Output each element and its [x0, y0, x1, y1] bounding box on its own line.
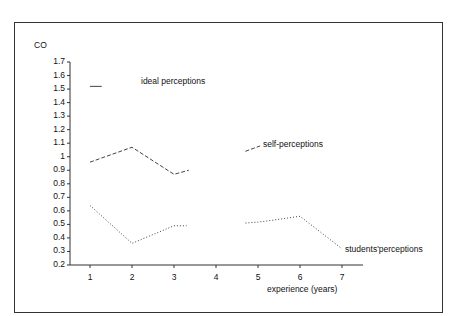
y-tick-label: 0.3	[35, 245, 65, 255]
y-axis-label: CO	[34, 40, 47, 50]
y-tick-label: 0.9	[35, 164, 65, 174]
y-tick-label: 1.4	[35, 97, 65, 107]
students-perceptions-label: students'perceptions	[345, 244, 423, 254]
x-tick-label: 3	[167, 272, 181, 282]
x-tick-label: 4	[209, 272, 223, 282]
self-perceptions-label: self-perceptions	[263, 139, 323, 149]
x-axis-label: experience (years)	[267, 284, 337, 294]
y-tick-label: 1.6	[35, 70, 65, 80]
series-line-self-perceptions	[90, 147, 189, 174]
series-line-students-perceptions	[90, 205, 187, 243]
y-tick-label: 1.3	[35, 110, 65, 120]
x-tick-label: 6	[293, 272, 307, 282]
y-tick-label: 0.2	[35, 259, 65, 269]
y-tick-label: 0.6	[35, 205, 65, 215]
y-tick-label: 1.5	[35, 83, 65, 93]
plot-area	[0, 0, 457, 316]
x-tick-label: 7	[335, 272, 349, 282]
y-tick-label: 1	[35, 151, 65, 161]
y-tick-label: 0.5	[35, 218, 65, 228]
x-tick-label: 2	[125, 272, 139, 282]
ideal-perceptions-label: ideal perceptions	[141, 76, 205, 86]
y-tick-label: 0.7	[35, 191, 65, 201]
y-tick-label: 1.1	[35, 137, 65, 147]
x-tick-label: 1	[83, 272, 97, 282]
y-tick-label: 0.8	[35, 178, 65, 188]
y-tick-label: 1.7	[35, 56, 65, 66]
series-line-students-perceptions	[245, 216, 342, 248]
y-tick-label: 1.2	[35, 124, 65, 134]
x-tick-label: 5	[251, 272, 265, 282]
y-tick-label: 0.4	[35, 232, 65, 242]
series-line-self-perceptions	[245, 146, 260, 151]
